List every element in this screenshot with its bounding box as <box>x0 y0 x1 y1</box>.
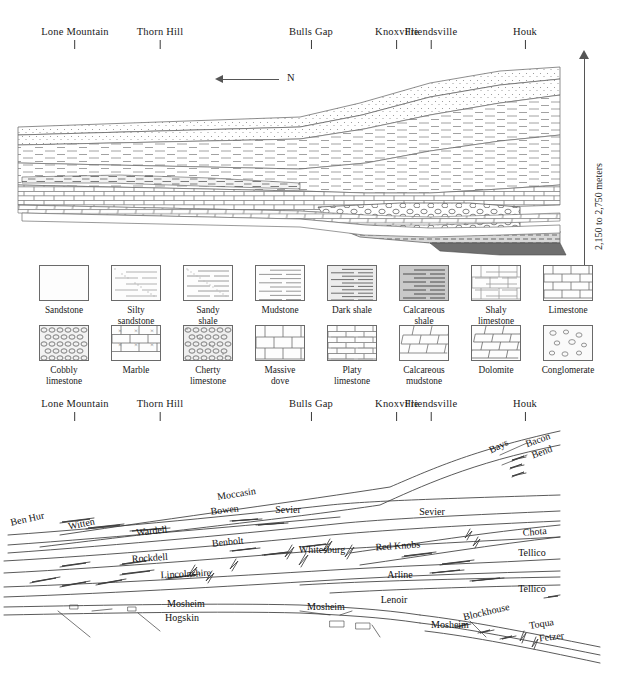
location-tick <box>74 412 75 421</box>
legend-swatch-cherty-limestone <box>183 325 233 361</box>
legend-item-cherty-limestone: Cherty limestone <box>170 325 246 387</box>
location-label: Houk <box>513 398 537 409</box>
location-tick <box>524 412 525 421</box>
legend-swatch-sandy-shale <box>183 265 233 301</box>
formation-label-rockdell: Rockdell <box>131 551 168 565</box>
location-tick <box>396 412 397 421</box>
location-label: Lone Mountain <box>41 398 109 409</box>
formation-label-fetzer: Fetzer <box>538 629 565 643</box>
legend-label: Dolomite <box>458 365 534 376</box>
legend-swatch-shaly-limestone <box>471 265 521 301</box>
legend-label: Platy limestone <box>314 365 390 387</box>
location-tick <box>160 412 161 421</box>
legend-item-calcareous-shale: Calcareous shale <box>386 265 462 327</box>
location-marker-lone-mountain-top: Lone Mountain <box>41 26 109 49</box>
legend-swatch-limestone <box>543 265 593 301</box>
legend-label: Marble <box>98 365 174 376</box>
legend-item-calcareous-mudstone: Calcareous mudstone <box>386 325 462 387</box>
location-label: Friendsville <box>405 398 458 409</box>
formation-label-toqua: Toqua <box>528 616 555 631</box>
legend-item-dolomite: Dolomite <box>458 325 534 376</box>
location-label: Houk <box>513 26 537 37</box>
formation-label-sevier: Sevier <box>419 506 445 517</box>
location-marker-friendsville-bottom: Friendsville <box>405 398 458 421</box>
location-label: Thorn Hill <box>137 26 184 37</box>
legend-item-conglomerate: Conglomerate <box>530 325 606 376</box>
legend-swatch-massive-dove <box>255 325 305 361</box>
location-tick <box>396 40 397 49</box>
legend-swatch-sandstone <box>39 265 89 301</box>
location-marker-houk-top: Houk <box>513 26 537 49</box>
legend-label: Calcareous shale <box>386 305 462 327</box>
legend-label: Cherty limestone <box>170 365 246 387</box>
location-tick <box>74 40 75 49</box>
legend-label: Sandy shale <box>170 305 246 327</box>
formation-label-mosheim: Mosheim <box>307 601 345 612</box>
formation-label-wardell: Wardell <box>135 523 168 537</box>
formation-label-sevier: Sevier <box>275 504 301 515</box>
formation-label-chota: Chota <box>522 525 547 538</box>
formation-label-lenoir: Lenoir <box>381 594 408 605</box>
location-marker-thorn-hill-bottom: Thorn Hill <box>137 398 184 421</box>
formation-label-benbolt: Benbolt <box>211 534 244 548</box>
formation-label-bowen: Bowen <box>210 502 239 516</box>
legend-item-sandy-shale: Sandy shale <box>170 265 246 327</box>
legend-item-cobbly-limestone: Cobbly limestone <box>26 325 102 387</box>
legend-label: Conglomerate <box>530 365 606 376</box>
legend-label: Massive dove <box>242 365 318 387</box>
legend-item-platy-limestone: Platy limestone <box>314 325 390 387</box>
svg-text:×: × <box>134 341 138 349</box>
legend-item-dark-shale: Dark shale <box>314 265 390 316</box>
legend-label: Dark shale <box>314 305 390 316</box>
legend-label: Silty sandstone <box>98 305 174 327</box>
location-marker-friendsville-top: Friendsville <box>405 26 458 49</box>
formation-label-lincolnshire: Lincolnshire <box>160 567 212 581</box>
location-label: Bulls Gap <box>289 398 333 409</box>
formation-label-mosheim: Mosheim <box>167 598 205 609</box>
location-label: Bulls Gap <box>289 26 333 37</box>
location-label: Lone Mountain <box>41 26 109 37</box>
location-marker-thorn-hill-top: Thorn Hill <box>137 26 184 49</box>
location-tick <box>311 40 312 49</box>
legend-swatch-conglomerate <box>543 325 593 361</box>
lithology-legend-row-2: Cobbly limestone××××××MarbleCherty limes… <box>0 325 630 381</box>
svg-text:×: × <box>118 341 122 349</box>
formation-correlation-diagram: BaysBaconBendMoccasinBen HurWittenBowenS… <box>0 425 630 670</box>
geologic-cross-section-figure: Lone MountainThorn HillBulls GapKnoxvill… <box>0 0 630 679</box>
location-tick <box>524 40 525 49</box>
legend-swatch-dark-shale <box>327 265 377 301</box>
formation-label-tellico: Tellico <box>518 583 546 594</box>
legend-label: Mudstone <box>242 305 318 316</box>
lithology-legend-row-1: SandstoneSilty sandstoneSandy shaleMudst… <box>0 265 630 321</box>
formation-label-red-knobs: Red Knobs <box>375 538 420 552</box>
legend-label: Limestone <box>530 305 606 316</box>
svg-text:×: × <box>150 341 154 349</box>
location-tick <box>311 412 312 421</box>
legend-label: Calcareous mudstone <box>386 365 462 387</box>
legend-swatch-dolomite <box>471 325 521 361</box>
legend-item-limestone: Limestone <box>530 265 606 316</box>
svg-text:×: × <box>118 327 122 335</box>
svg-text:×: × <box>150 327 154 335</box>
legend-swatch-calcareous-mudstone <box>399 325 449 361</box>
formation-label-tellico: Tellico <box>518 547 546 558</box>
legend-swatch-calcareous-shale <box>399 265 449 301</box>
svg-text:×: × <box>134 327 138 335</box>
formation-label-whitesburg: Whitesburg <box>299 544 345 555</box>
location-tick <box>431 412 432 421</box>
legend-item-silty-sandstone: Silty sandstone <box>98 265 174 327</box>
formation-label-ben-hur: Ben Hur <box>9 509 45 528</box>
location-marker-bulls-gap-bottom: Bulls Gap <box>289 398 333 421</box>
legend-swatch-silty-sandstone <box>111 265 161 301</box>
legend-swatch-platy-limestone <box>327 325 377 361</box>
legend-item-mudstone: Mudstone <box>242 265 318 316</box>
location-label: Thorn Hill <box>137 398 184 409</box>
legend-item-massive-dove: Massive dove <box>242 325 318 387</box>
lithology-cross-section <box>0 65 630 265</box>
formation-label-hogskin: Hogskin <box>165 612 199 623</box>
legend-label: Sandstone <box>26 305 102 316</box>
legend-swatch-marble: ×××××× <box>111 325 161 361</box>
legend-swatch-cobbly-limestone <box>39 325 89 361</box>
legend-item-marble: ××××××Marble <box>98 325 174 376</box>
location-label: Friendsville <box>405 26 458 37</box>
